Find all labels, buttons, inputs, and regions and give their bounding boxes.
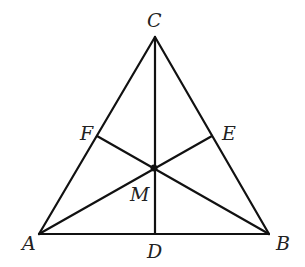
label-b: B (275, 232, 290, 254)
median-BF (97, 136, 269, 234)
centroid-dot (151, 165, 158, 172)
label-a: A (20, 232, 36, 254)
label-c: C (147, 9, 162, 31)
triangle-diagram: C F E M A D B (0, 0, 305, 267)
label-m: M (129, 183, 150, 205)
label-e: E (221, 122, 236, 144)
median-AE (39, 136, 212, 234)
label-f: F (79, 122, 94, 144)
label-d: D (146, 240, 162, 262)
